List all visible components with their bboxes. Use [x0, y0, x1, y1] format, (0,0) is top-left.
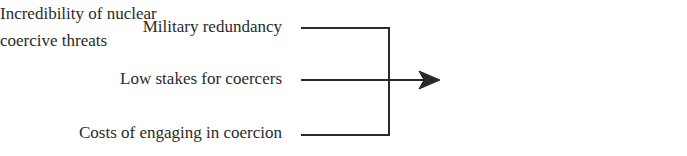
connector-lines — [0, 0, 687, 156]
diagram: Military redundancy Low stakes for coerc… — [0, 0, 687, 54]
